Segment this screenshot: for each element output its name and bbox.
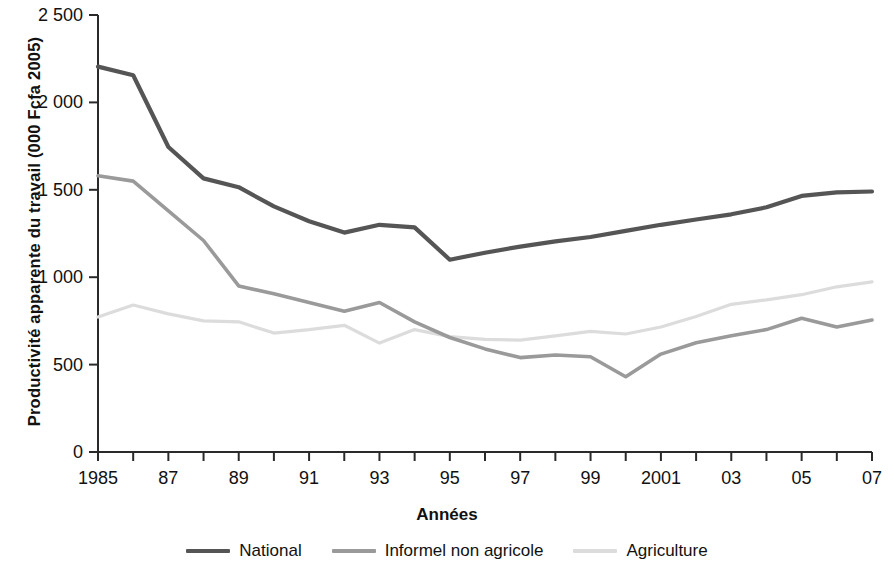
x-tick-label: 93 [369, 468, 389, 488]
legend-swatch-icon [332, 549, 376, 553]
legend-item: Agriculture [573, 541, 707, 561]
legend-label: Agriculture [626, 541, 707, 561]
y-tick-label: 1 500 [38, 180, 83, 200]
data-series-group [98, 67, 872, 377]
series-line-national [98, 67, 872, 260]
chart-legend: NationalInformel non agricoleAgriculture [0, 541, 894, 561]
series-line-agriculture [98, 282, 872, 343]
chart-figure: Productivité apparente du travail (000 F… [0, 0, 894, 573]
x-axis-ticks: 1985878991939597992001030507 [78, 452, 882, 488]
y-tick-label: 2 000 [38, 92, 83, 112]
legend-swatch-icon [186, 549, 230, 553]
y-tick-label: 0 [73, 442, 83, 462]
x-tick-label: 2001 [641, 468, 681, 488]
x-tick-label: 07 [862, 468, 882, 488]
line-chart-plot: 05001 0001 5002 0002 500 198587899193959… [0, 0, 894, 500]
y-tick-label: 1 000 [38, 267, 83, 287]
legend-label: National [239, 541, 301, 561]
x-tick-label: 97 [510, 468, 530, 488]
legend-label: Informel non agricole [385, 541, 544, 561]
legend-swatch-icon [573, 549, 617, 553]
x-tick-label: 95 [440, 468, 460, 488]
x-axis-title: Années [0, 505, 894, 525]
x-tick-label: 99 [581, 468, 601, 488]
legend-item: Informel non agricole [332, 541, 544, 561]
x-tick-label: 05 [792, 468, 812, 488]
y-tick-label: 500 [53, 355, 83, 375]
x-tick-label: 91 [299, 468, 319, 488]
series-line-informel-non-agricole [98, 176, 872, 377]
x-tick-label: 03 [721, 468, 741, 488]
x-tick-label: 1985 [78, 468, 118, 488]
legend-item: National [186, 541, 301, 561]
x-tick-label: 87 [158, 468, 178, 488]
y-axis-ticks: 05001 0001 5002 0002 500 [38, 5, 98, 462]
y-tick-label: 2 500 [38, 5, 83, 25]
x-tick-label: 89 [229, 468, 249, 488]
